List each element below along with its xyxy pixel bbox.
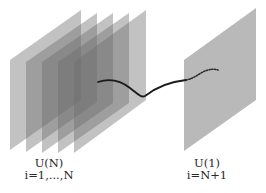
left-stack-label: U(N) i=1,...,N [22,157,76,181]
right-plane-label: U(1) i=N+1 [180,157,234,181]
right-brane-plane [184,8,256,151]
left-index-label: i=1,...,N [22,169,76,181]
right-index-label: i=N+1 [180,169,234,181]
left-brane-stack [10,10,146,153]
